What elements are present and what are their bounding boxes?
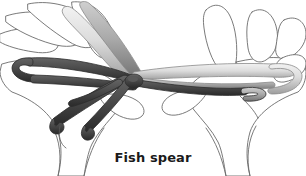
string-figure-illustration	[0, 0, 306, 176]
string-crossing-knot	[125, 74, 143, 88]
figure-fish-spear: Fish spear	[0, 0, 306, 176]
